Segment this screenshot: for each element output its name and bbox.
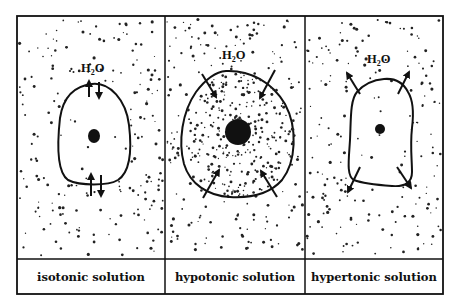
osmosis-diagram: H2O H2O H2O isotonic solution hypoton <box>0 0 465 307</box>
label-isotonic: isotonic solution <box>37 270 145 284</box>
arrow-out-top-left <box>347 73 360 94</box>
panel-isotonic: H2O <box>58 61 130 196</box>
label-hypotonic: hypotonic solution <box>175 270 296 284</box>
nucleus-hypertonic <box>375 124 385 134</box>
h2o-label-isotonic: H2O <box>81 61 105 77</box>
panel-hypotonic: H2O <box>181 48 295 198</box>
nucleus-hypotonic <box>225 119 251 145</box>
h2o-label-hypertonic: H2O <box>367 52 391 68</box>
label-hypertonic: hypertonic solution <box>311 270 437 284</box>
panel-hypertonic: H2O <box>347 52 413 192</box>
nucleus-isotonic <box>88 129 100 143</box>
h2o-label-hypotonic: H2O <box>222 48 246 64</box>
